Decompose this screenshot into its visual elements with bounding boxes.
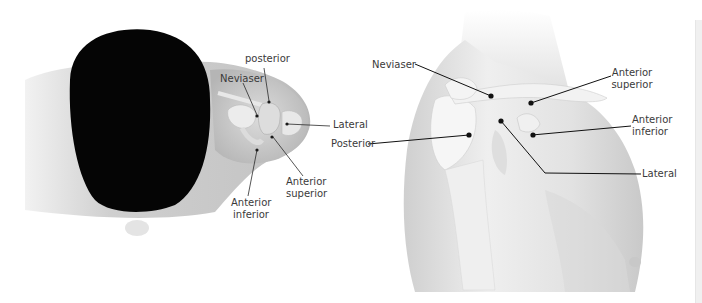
label-posterior-portal: Posterior xyxy=(331,138,375,150)
page-edge-strip xyxy=(695,20,702,303)
superior-view-drawing xyxy=(0,0,345,303)
label-line: inferior xyxy=(231,209,271,221)
label-line: superior xyxy=(611,79,653,91)
hair-shape xyxy=(70,29,210,212)
label-lateral-portal: Lateral xyxy=(642,168,677,180)
label-line: Anterior xyxy=(231,197,271,209)
label-anterior-inferior-portal: Anterior inferior xyxy=(231,197,271,221)
label-anterior-superior-portal: Anterior superior xyxy=(611,67,653,91)
label-neviaser-portal: Neviaser xyxy=(372,59,416,71)
label-anterior-superior-portal: Anterior superior xyxy=(286,176,326,200)
nipple-shape xyxy=(629,257,641,267)
label-anterior-inferior-portal: Anterior inferior xyxy=(632,114,668,138)
label-neviaser-portal: Neviaser xyxy=(220,73,264,85)
superior-view-illustration: posterior Neviaser Lateral Anterior supe… xyxy=(0,0,345,303)
chin-shape xyxy=(125,220,149,236)
label-posterior-portal: posterior xyxy=(245,53,290,65)
anterolateral-view-illustration: Neviaser Anterior superior Anterior infe… xyxy=(345,0,663,303)
label-line: Anterior xyxy=(611,67,653,79)
label-line: Anterior xyxy=(632,114,668,126)
anterolateral-view-drawing xyxy=(345,0,663,303)
label-line: superior xyxy=(286,188,326,200)
label-line: Anterior xyxy=(286,176,326,188)
label-line: inferior xyxy=(632,126,668,138)
